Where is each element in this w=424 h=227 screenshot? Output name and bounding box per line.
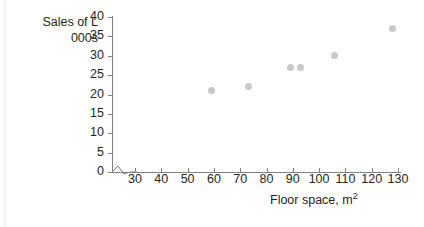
y-axis-tick-label: 40 [76,10,104,22]
x-axis-title-text: Floor space, m [270,193,353,207]
data-point [245,83,252,90]
y-axis-tick-mark [108,17,112,18]
data-point [287,64,294,71]
x-axis-title-superscript: 2 [353,191,358,201]
y-axis-line [112,16,113,173]
y-axis-tick-mark [108,153,112,154]
y-axis-tick-label: 35 [76,29,104,41]
data-point [331,52,338,59]
y-axis-tick-mark [108,75,112,76]
y-axis-tick-mark [108,36,112,37]
y-axis-tick-label: 15 [76,107,104,119]
y-axis-tick-mark [108,95,112,96]
y-axis-tick-label: 0 [76,165,104,177]
y-axis-tick-label: 30 [76,49,104,61]
data-point [208,87,215,94]
y-axis-tick-mark [108,133,112,134]
x-axis-tick-label: 130 [383,172,413,186]
y-axis-tick-label: 5 [76,146,104,158]
x-axis-title: Floor space, m2 [270,193,358,207]
y-axis-tick-label: 10 [76,126,104,138]
data-point [389,25,396,32]
y-axis-tick-label: 20 [76,88,104,100]
scatter-plot-screenshot: Sales of L 000s 0510152025303540 3040506… [0,0,424,227]
y-axis-tick-mark [108,114,112,115]
y-axis-tick-mark [108,56,112,57]
chart-canvas: Sales of L 000s 0510152025303540 3040506… [0,0,424,227]
y-axis-tick-mark [108,172,112,173]
data-point [297,64,304,71]
y-axis-tick-label: 25 [76,68,104,80]
